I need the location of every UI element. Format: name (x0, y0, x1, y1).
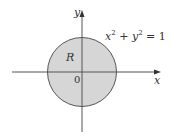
y-axis-label: y (74, 7, 80, 18)
diagram-canvas (0, 0, 172, 138)
circle-equation: x2 + y2 = 1 (105, 30, 166, 42)
eq-equals: = 1 (143, 30, 166, 43)
y-axis-arrow-icon (80, 10, 85, 17)
eq-plus: + (116, 30, 132, 43)
origin-label: 0 (74, 75, 80, 85)
region-label: R (66, 52, 74, 63)
x-axis-label: x (154, 75, 160, 86)
